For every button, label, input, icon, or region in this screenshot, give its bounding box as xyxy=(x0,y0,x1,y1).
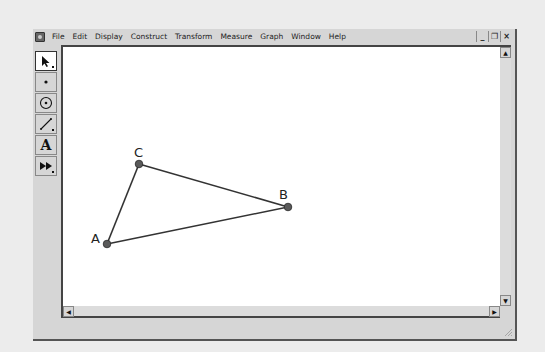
close-button[interactable]: × xyxy=(500,31,512,42)
straightedge-tool-button[interactable] xyxy=(35,114,57,134)
text-a-icon: A xyxy=(41,137,52,153)
sketchpad-window: File Edit Display Construct Transform Me… xyxy=(33,29,517,341)
menu-file[interactable]: File xyxy=(48,32,69,41)
menu-measure[interactable]: Measure xyxy=(216,32,256,41)
app-icon[interactable] xyxy=(35,32,45,42)
menu-bar: File Edit Display Construct Transform Me… xyxy=(33,29,515,44)
menu-edit[interactable]: Edit xyxy=(69,32,92,41)
menu-graph[interactable]: Graph xyxy=(256,32,287,41)
vertical-scrollbar[interactable]: ▲ ▼ xyxy=(500,45,511,306)
more-tools-indicator xyxy=(52,66,54,68)
scroll-right-button[interactable]: ▶ xyxy=(489,306,500,317)
scrollbar-corner xyxy=(500,306,511,318)
resize-grip-icon[interactable] xyxy=(504,328,513,337)
menu-window[interactable]: Window xyxy=(287,32,325,41)
segment-ab[interactable] xyxy=(107,207,288,244)
more-tools-indicator xyxy=(52,171,54,173)
point-icon xyxy=(43,79,49,85)
right-arrow-icon: ▶ xyxy=(492,308,497,315)
triangle-sketch: A B C xyxy=(63,47,500,306)
menu-help[interactable]: Help xyxy=(325,32,350,41)
custom-tool-button[interactable] xyxy=(35,156,57,176)
straightedge-segment-icon xyxy=(39,117,53,131)
window-controls: _ ❐ × xyxy=(476,31,512,42)
point-b[interactable] xyxy=(284,203,292,211)
scroll-down-button[interactable]: ▼ xyxy=(500,295,511,306)
label-a[interactable]: A xyxy=(91,231,100,246)
point-tool-button[interactable] xyxy=(35,72,57,92)
label-c[interactable]: C xyxy=(134,145,143,160)
left-arrow-icon: ◀ xyxy=(66,308,71,315)
restore-button[interactable]: ❐ xyxy=(488,31,500,42)
arrow-tool-button[interactable] xyxy=(35,51,57,71)
compass-tool-button[interactable] xyxy=(35,93,57,113)
menu-transform[interactable]: Transform xyxy=(171,32,216,41)
point-c[interactable] xyxy=(135,160,143,168)
sketch-canvas[interactable]: A B C xyxy=(61,45,500,306)
text-tool-button[interactable]: A xyxy=(35,135,57,155)
segment-cb[interactable] xyxy=(139,164,288,207)
menu-construct[interactable]: Construct xyxy=(127,32,171,41)
segment-ac[interactable] xyxy=(107,164,139,244)
label-b[interactable]: B xyxy=(279,187,288,202)
arrow-pointer-icon xyxy=(40,55,52,68)
down-arrow-icon: ▼ xyxy=(503,297,508,304)
point-a[interactable] xyxy=(103,240,111,248)
custom-tools-icon xyxy=(39,161,53,171)
scroll-up-button[interactable]: ▲ xyxy=(500,47,511,58)
toolbox: A xyxy=(35,51,57,177)
up-arrow-icon: ▲ xyxy=(503,49,508,56)
horizontal-scrollbar[interactable]: ◀ ▶ xyxy=(61,306,500,318)
menu-display[interactable]: Display xyxy=(91,32,127,41)
more-tools-indicator xyxy=(52,129,54,131)
compass-circle-icon xyxy=(39,96,53,110)
minimize-button[interactable]: _ xyxy=(476,31,488,42)
scroll-left-button[interactable]: ◀ xyxy=(63,306,74,317)
